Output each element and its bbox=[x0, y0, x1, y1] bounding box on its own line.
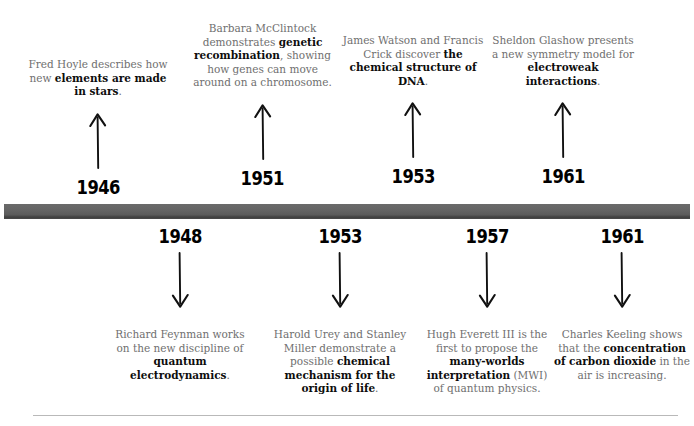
timeline-bar bbox=[4, 204, 690, 219]
entry-year: 1961 bbox=[600, 226, 643, 246]
timeline-infographic: Fred Hoyle describes how new elements ar… bbox=[0, 0, 694, 426]
entry-description: Sheldon Glashow presents a new symmetry … bbox=[492, 34, 634, 88]
entry-description: Hugh Everett III is the first to propose… bbox=[424, 328, 550, 396]
timeline-entry-above-0: Fred Hoyle describes how new elements ar… bbox=[28, 58, 168, 197]
arrow-up-icon bbox=[87, 107, 109, 173]
entry-year: 1953 bbox=[391, 166, 434, 186]
arrow-up-icon bbox=[402, 96, 424, 162]
arrow-down-icon bbox=[169, 252, 191, 318]
entry-year: 1951 bbox=[241, 168, 284, 188]
entry-description: Harold Urey and Stanley Miller demonstra… bbox=[270, 328, 410, 396]
entry-description: Fred Hoyle describes how new elements ar… bbox=[28, 58, 168, 99]
arrow-down-icon bbox=[329, 252, 351, 318]
arrow-up-icon bbox=[552, 96, 574, 162]
timeline-entry-above-2: James Watson and Francis Crick discover … bbox=[342, 34, 484, 186]
timeline-entry-below-2: 1957 Hugh Everett III is the first to pr… bbox=[424, 226, 550, 396]
entry-year: 1948 bbox=[158, 226, 201, 246]
arrow-up-icon bbox=[252, 98, 274, 164]
entry-description: James Watson and Francis Crick discover … bbox=[342, 34, 484, 88]
timeline-entry-below-1: 1953 Harold Urey and Stanley Miller demo… bbox=[270, 226, 410, 396]
timeline-entry-below-0: 1948 Richard Feynman works on the new di… bbox=[110, 226, 250, 382]
timeline-entry-above-1: Barbara McClintock demonstrates genetic … bbox=[190, 22, 335, 188]
entry-year: 1946 bbox=[76, 177, 119, 197]
timeline-entry-above-3: Sheldon Glashow presents a new symmetry … bbox=[492, 34, 634, 186]
arrow-down-icon bbox=[611, 252, 633, 318]
timeline-entry-below-3: 1961 Charles Keeling shows that the conc… bbox=[552, 226, 692, 382]
entry-description: Barbara McClintock demonstrates genetic … bbox=[190, 22, 335, 90]
entry-year: 1953 bbox=[318, 226, 361, 246]
entry-year: 1957 bbox=[465, 226, 508, 246]
arrow-down-icon bbox=[476, 252, 498, 318]
entry-description: Charles Keeling shows that the concentra… bbox=[552, 328, 692, 382]
footer-divider bbox=[33, 415, 678, 416]
entry-description: Richard Feynman works on the new discipl… bbox=[110, 328, 250, 382]
entry-year: 1961 bbox=[541, 166, 584, 186]
